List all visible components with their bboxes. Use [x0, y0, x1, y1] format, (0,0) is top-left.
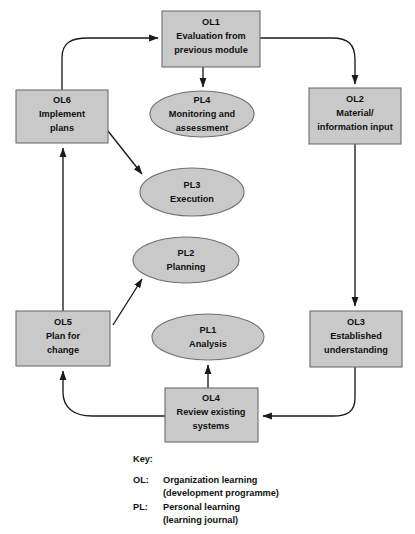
- node-pl1-shape: [152, 314, 264, 360]
- node-pl3[interactable]: PL3 Execution: [140, 168, 244, 216]
- node-ol3-code: OL3: [347, 317, 365, 327]
- node-ol2-code: OL2: [346, 94, 364, 104]
- node-ol5-code: OL5: [54, 317, 72, 327]
- node-pl1-line1: Analysis: [189, 339, 227, 349]
- key-entry-ol-line1: Organization learning: [163, 475, 257, 485]
- key-entry-pl-line1: Personal learning: [163, 502, 240, 512]
- node-ol5[interactable]: OL5 Plan for change: [16, 311, 110, 366]
- node-pl2-code: PL2: [178, 248, 195, 258]
- node-ol1[interactable]: OL1 Evaluation from previous module: [162, 11, 260, 67]
- node-pl3-line1: Execution: [170, 194, 214, 204]
- node-layer: OL1 Evaluation from previous module OL2 …: [16, 11, 402, 442]
- node-pl4-code: PL4: [194, 95, 212, 105]
- connector-ol6-to-pl3: [108, 131, 142, 174]
- connector-ol3-to-ol4: [263, 367, 355, 416]
- connector-ol4-to-ol5: [63, 371, 165, 416]
- node-ol4[interactable]: OL4 Review existing systems: [165, 388, 258, 442]
- key-entry-pl-tag: PL:: [133, 502, 148, 512]
- node-ol1-line2: previous module: [174, 45, 248, 55]
- diagram-canvas: OL1 Evaluation from previous module OL2 …: [0, 0, 415, 534]
- node-ol2-line1: Material/: [336, 108, 374, 118]
- node-ol6-line1: Implement: [39, 109, 85, 119]
- node-pl2-shape: [133, 237, 239, 283]
- key-entry-pl-line2: (learning journal): [163, 515, 238, 525]
- node-pl4-line2: assessment: [176, 123, 229, 133]
- node-pl1-code: PL1: [200, 325, 217, 335]
- node-pl4[interactable]: PL4 Monitoring and assessment: [150, 91, 254, 137]
- node-ol2[interactable]: OL2 Material/ information input: [309, 88, 401, 144]
- node-ol3-line2: understanding: [324, 345, 388, 355]
- node-ol2-line2: information input: [317, 122, 393, 132]
- key-heading: Key:: [133, 454, 153, 464]
- node-ol1-code: OL1: [202, 17, 220, 27]
- node-ol4-line2: systems: [193, 421, 230, 431]
- node-ol4-line1: Review existing: [177, 407, 246, 417]
- key-entry-ol-line2: (development programme): [163, 488, 279, 498]
- node-ol3[interactable]: OL3 Established understanding: [310, 311, 402, 367]
- node-ol6-line2: plans: [50, 123, 74, 133]
- process-flow-diagram: OL1 Evaluation from previous module OL2 …: [0, 0, 415, 534]
- key-entry-ol-tag: OL:: [133, 475, 149, 485]
- node-pl1[interactable]: PL1 Analysis: [152, 314, 264, 360]
- connector-ol5-to-pl2: [113, 279, 142, 325]
- node-pl3-shape: [140, 168, 244, 216]
- node-ol1-line1: Evaluation from: [176, 31, 245, 41]
- key-legend: Key: OL: Organization learning (developm…: [133, 454, 279, 525]
- node-ol3-line1: Established: [330, 331, 382, 341]
- connector-ol1-to-ol2: [260, 38, 355, 84]
- node-pl3-code: PL3: [184, 180, 201, 190]
- node-pl2-line1: Planning: [167, 262, 206, 272]
- node-pl2[interactable]: PL2 Planning: [133, 237, 239, 283]
- node-ol5-line1: Plan for: [46, 331, 81, 341]
- node-ol5-line2: change: [47, 345, 79, 355]
- connector-ol6-to-ol1: [62, 38, 158, 90]
- node-ol6-code: OL6: [53, 95, 71, 105]
- node-pl4-line1: Monitoring and: [169, 109, 235, 119]
- node-ol4-code: OL4: [202, 393, 221, 403]
- node-ol6[interactable]: OL6 Implement plans: [16, 90, 108, 143]
